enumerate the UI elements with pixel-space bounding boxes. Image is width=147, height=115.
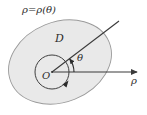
origin-label: O (42, 71, 50, 81)
region-boundary-ellipse (0, 5, 124, 115)
figure-canvas (0, 0, 147, 115)
polar-region-figure: ρ=ρ(θ) D O θ ρ (0, 0, 147, 115)
angle-theta-label: θ (77, 53, 83, 63)
boundary-curve-label: ρ=ρ(θ) (22, 5, 56, 15)
region-label: D (55, 33, 64, 44)
polar-axis-label: ρ (131, 76, 137, 86)
origin-point (51, 71, 53, 73)
